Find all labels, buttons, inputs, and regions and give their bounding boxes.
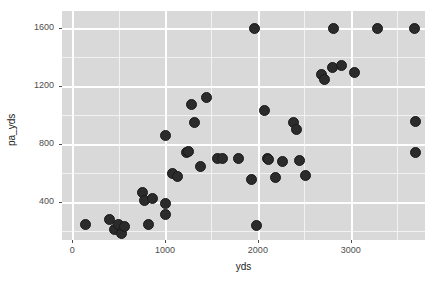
gridline-minor-vertical: [211, 11, 212, 240]
data-point: [410, 116, 421, 127]
data-point: [195, 161, 206, 172]
x-tick-mark: [258, 240, 259, 243]
y-tick-mark: [59, 86, 62, 87]
gridline-minor-vertical: [397, 11, 398, 240]
x-tick-mark: [72, 240, 73, 243]
gridline-major-vertical: [72, 11, 74, 240]
plot-panel: [62, 11, 425, 240]
gridline-minor-horizontal: [62, 115, 425, 116]
data-point: [217, 153, 228, 164]
data-point: [160, 130, 171, 141]
x-tick-mark: [351, 240, 352, 243]
x-tick-label: 2000: [233, 245, 283, 255]
gridline-minor-horizontal: [62, 173, 425, 174]
y-tick-label: 800: [10, 138, 54, 148]
data-point: [409, 23, 420, 34]
data-point: [263, 154, 274, 165]
data-point: [277, 156, 288, 167]
x-tick-label: 3000: [326, 245, 376, 255]
data-point: [189, 117, 200, 128]
y-tick-mark: [59, 144, 62, 145]
data-point: [249, 23, 260, 34]
gridline-major-vertical: [351, 11, 353, 240]
gridline-minor-vertical: [304, 11, 305, 240]
data-point: [251, 220, 262, 231]
gridline-minor-horizontal: [62, 57, 425, 58]
x-axis-title: yds: [224, 261, 264, 272]
scatter-plot: yds pa_yds 400800120016000100020003000: [0, 0, 443, 287]
y-tick-mark: [59, 202, 62, 203]
data-point: [319, 74, 330, 85]
data-point: [294, 155, 305, 166]
x-tick-label: 1000: [140, 245, 190, 255]
x-tick-mark: [165, 240, 166, 243]
gridline-major-horizontal: [62, 28, 425, 30]
data-point: [160, 209, 171, 220]
data-point: [291, 124, 302, 135]
y-tick-label: 400: [10, 196, 54, 206]
data-point: [143, 219, 154, 230]
data-point: [372, 23, 383, 34]
data-point: [336, 60, 347, 71]
data-point: [300, 170, 311, 181]
y-tick-mark: [59, 28, 62, 29]
data-point: [270, 172, 281, 183]
data-point: [80, 219, 91, 230]
gridline-major-horizontal: [62, 86, 425, 88]
gridline-major-horizontal: [62, 202, 425, 204]
data-point: [246, 174, 257, 185]
gridline-major-horizontal: [62, 144, 425, 146]
gridline-minor-vertical: [119, 11, 120, 240]
data-point: [349, 67, 360, 78]
y-tick-label: 1600: [10, 22, 54, 32]
data-point: [160, 198, 171, 209]
data-point: [259, 105, 270, 116]
data-point: [172, 171, 183, 182]
y-tick-label: 1200: [10, 80, 54, 90]
x-tick-label: 0: [47, 245, 97, 255]
gridline-major-vertical: [258, 11, 260, 240]
data-point: [186, 99, 197, 110]
data-point: [183, 146, 194, 157]
data-point: [233, 153, 244, 164]
data-point: [328, 23, 339, 34]
data-point: [410, 147, 421, 158]
